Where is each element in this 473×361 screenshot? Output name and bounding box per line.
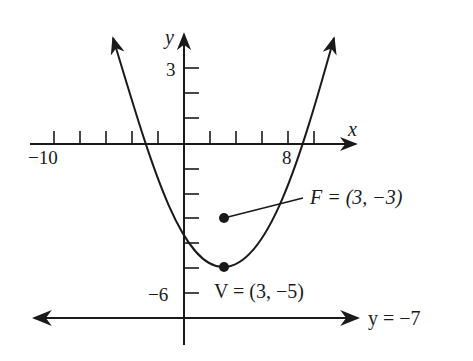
focus-label: F = (3, −3) <box>309 186 403 209</box>
y-tick-label-3: 3 <box>166 59 176 80</box>
focus-dot <box>219 213 229 223</box>
parabola-curve <box>113 38 334 267</box>
y-tick-label-neg6: −6 <box>148 284 168 305</box>
vertex-label: V = (3, −5) <box>214 280 304 303</box>
directrix: y = −7 <box>34 307 421 330</box>
focus-point: F = (3, −3) <box>219 186 403 223</box>
parabola-diagram: x −10 8 y 3 −6 y = −7 F = (3, −3) <box>0 0 473 361</box>
y-axis-ticks <box>184 68 199 293</box>
focus-label-text: F = (3, −3) <box>309 186 403 209</box>
y-axis: y 3 −6 <box>148 26 199 345</box>
x-axis-label: x <box>347 118 357 140</box>
focus-leader-line <box>224 198 303 218</box>
vertex-dot <box>219 262 229 272</box>
vertex-point: V = (3, −5) <box>214 262 304 303</box>
x-tick-label-neg10: −10 <box>28 147 58 168</box>
x-tick-label-8: 8 <box>282 147 292 168</box>
y-axis-label: y <box>163 26 174 49</box>
directrix-label: y = −7 <box>368 307 421 330</box>
